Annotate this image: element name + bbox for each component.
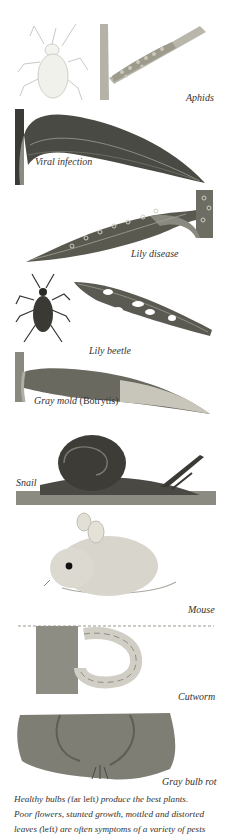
snail-label: Snail xyxy=(16,477,37,488)
rotted-bulb-icon xyxy=(0,705,230,785)
caption-line-1: Healthy bulbs (far left) produce the bes… xyxy=(14,792,226,807)
lily-disease-label: Lily disease xyxy=(131,248,179,259)
mouse-label: Mouse xyxy=(188,604,215,615)
viral-infected-leaf-icon xyxy=(0,105,230,185)
caption-line-3: leaves (left) are often symptoms of a va… xyxy=(14,822,226,835)
caption-line-2: Poor flowers, stunted growth, mottled an… xyxy=(14,807,226,822)
cutworm-label: Cutworm xyxy=(178,691,215,702)
lily-disease-leaf-icon xyxy=(0,190,230,270)
viral-infection-label: Viral infection xyxy=(35,156,92,167)
aphids-label: Aphids xyxy=(186,92,214,103)
caption: Healthy bulbs (far left) produce the bes… xyxy=(14,792,226,835)
gray-mold-label: Gray mold (Botrytis) xyxy=(34,395,118,406)
gray-bulb-rot-label: Gray bulb rot xyxy=(162,776,217,787)
cutworm-icon xyxy=(0,622,230,702)
snail-icon xyxy=(0,425,230,505)
mouse-icon xyxy=(0,510,230,610)
